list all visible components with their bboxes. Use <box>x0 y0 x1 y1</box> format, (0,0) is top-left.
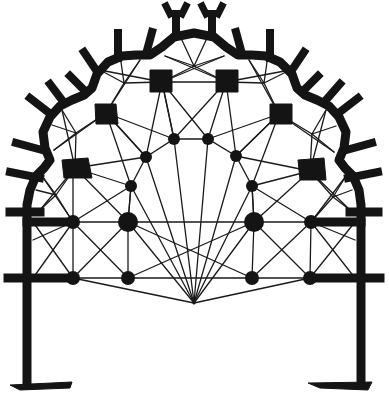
outer-walls <box>8 6 380 390</box>
vault-bosses <box>66 74 318 305</box>
keystone <box>193 302 196 305</box>
chevet-plan-figure <box>0 0 389 400</box>
chevet-plan-svg <box>0 0 389 400</box>
